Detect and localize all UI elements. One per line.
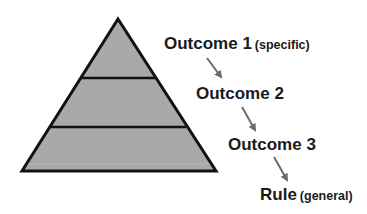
step-label: Rule	[260, 185, 297, 204]
step-outcome-1: Outcome 1(specific)	[164, 35, 310, 52]
step-rule: Rule(general)	[260, 186, 353, 203]
step-label: Outcome 1	[164, 34, 252, 53]
pyramid-graphic	[0, 0, 367, 214]
step-outcome-3: Outcome 3	[228, 136, 316, 153]
step-qualifier: (specific)	[255, 38, 310, 52]
step-label: Outcome 3	[228, 135, 316, 154]
step-outcome-2: Outcome 2	[196, 85, 284, 102]
arrow-icon	[274, 157, 287, 180]
step-qualifier: (general)	[300, 189, 353, 203]
step-label: Outcome 2	[196, 84, 284, 103]
step-arrows	[207, 58, 287, 180]
arrow-icon	[242, 107, 255, 130]
diagram-canvas: Outcome 1(specific) Outcome 2 Outcome 3 …	[0, 0, 367, 214]
arrow-icon	[207, 58, 221, 77]
